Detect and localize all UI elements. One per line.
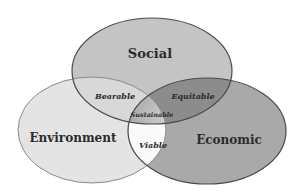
sustainable-label: Sustainable (131, 111, 174, 119)
viable-label: Viable (139, 140, 167, 150)
social-label: Social (128, 46, 172, 61)
equitable-label: Equitable (170, 91, 214, 101)
environment-label: Environment (29, 131, 117, 145)
economic-label: Economic (196, 133, 262, 147)
sustainability-venn-diagram: Social Environment Economic Bearable Equ… (0, 0, 301, 194)
bearable-label: Bearable (94, 91, 135, 101)
